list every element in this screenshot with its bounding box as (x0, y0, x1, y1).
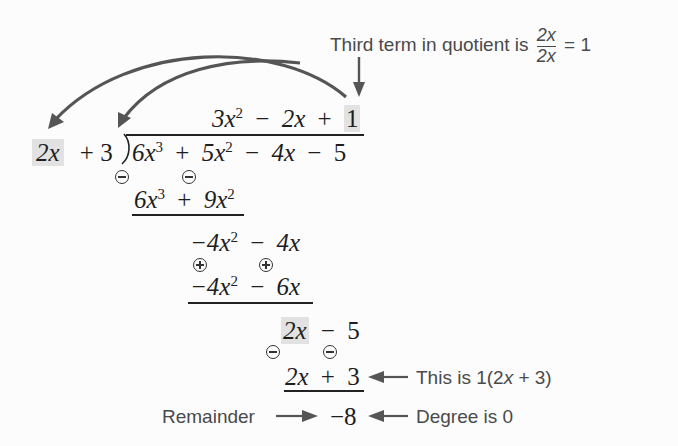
operator: − (321, 317, 335, 344)
operator: − (250, 273, 264, 300)
subtraction-rule (284, 390, 364, 392)
remainder-label: Remainder (162, 407, 255, 426)
step2-result: 2x − 5 (281, 318, 360, 343)
term: 6x (277, 273, 301, 300)
circled-plus-icon (193, 258, 207, 272)
divisor-lead-term-highlight: 2x (32, 139, 64, 166)
dividend-term-3: 4x (271, 139, 295, 166)
step1-result: −4x2 − 4x (190, 230, 300, 255)
operator: − (250, 229, 264, 256)
operator: + (175, 139, 189, 166)
term: 9x (204, 186, 228, 213)
exponent: 2 (230, 229, 238, 245)
term: −4x (190, 273, 230, 300)
dividend-term-2: 5x (202, 139, 226, 166)
remainder-value: −8 (330, 404, 357, 429)
step1-subtrahend: 6x3 + 9x2 (134, 187, 235, 212)
exponent: 3 (156, 139, 164, 155)
operator: − (307, 139, 321, 166)
term: 3 (347, 363, 360, 390)
term: 2x (285, 363, 309, 390)
step3-subtrahend: 2x + 3 (285, 364, 360, 389)
circled-minus-icon (182, 170, 196, 184)
circled-plus-icon (259, 258, 273, 272)
operator: + (177, 186, 191, 213)
circled-minus-icon (266, 345, 280, 359)
subtraction-rule (188, 302, 313, 304)
note-variable: x (504, 367, 514, 388)
step2-lead-term-highlight: 2x (281, 317, 309, 344)
term: 4x (277, 229, 301, 256)
operator: + (321, 363, 335, 390)
divisor-rest: + 3 (80, 139, 113, 166)
step3-note: This is 1(2x + 3) (416, 368, 552, 387)
term: 5 (347, 317, 360, 344)
circled-minus-icon (323, 345, 337, 359)
exponent: 2 (225, 139, 233, 155)
dividend: 6x3 + 5x2 − 4x − 5 (132, 140, 346, 165)
note-text: + 3) (513, 367, 552, 388)
exponent: 2 (227, 186, 235, 202)
degree-note: Degree is 0 (416, 407, 513, 426)
divisor: 2x + 3 (32, 140, 113, 165)
subtraction-rule (132, 214, 244, 216)
note-text: This is 1(2 (416, 367, 504, 388)
operator: − (245, 139, 259, 166)
dividend-term-1: 6x (132, 139, 156, 166)
term: −4x (190, 229, 230, 256)
dividend-term-4: 5 (334, 139, 347, 166)
step2-subtrahend: −4x2 − 6x (190, 274, 300, 299)
exponent: 2 (230, 273, 238, 289)
circled-minus-icon (115, 170, 129, 184)
term: 6x (134, 186, 158, 213)
exponent: 3 (158, 186, 166, 202)
